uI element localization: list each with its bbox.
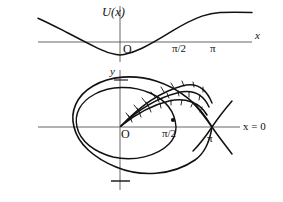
lower-panel-graphics: [0, 0, 283, 202]
lower-tick-pi: π: [207, 133, 213, 144]
saddle-arm-lower-right: [212, 127, 232, 154]
lower-axis-annotation: x = 0: [243, 121, 266, 132]
saddle-separatrix-arms: [193, 101, 232, 154]
marked-point-dot: [171, 118, 175, 122]
saddle-arm-upper-right: [212, 101, 232, 127]
lower-origin-label: O: [121, 128, 130, 140]
lower-tick-pi-over-2: π/2: [162, 128, 176, 139]
lower-y-axis-label: y: [110, 66, 115, 77]
physics-figure: U(x) O π/2 π x: [0, 0, 283, 202]
trajectory-arc-middle: [121, 92, 209, 126]
